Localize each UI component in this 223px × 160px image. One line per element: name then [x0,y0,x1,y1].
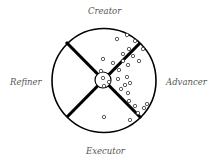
data-point [116,77,119,80]
data-point [127,99,130,102]
label-executor: Executor [86,146,125,156]
data-point [145,102,148,105]
label-refiner: Refiner [10,77,42,87]
data-point [126,63,129,66]
data-point [121,59,124,62]
data-point [111,61,114,64]
data-point [119,87,122,90]
data-point [126,91,129,94]
data-point [101,76,104,79]
label-advancer: Advancer [166,77,207,87]
data-point [128,118,131,121]
data-point [125,75,128,78]
data-point [121,52,124,55]
data-point [101,57,104,60]
data-point [99,69,102,72]
data-point [128,81,131,84]
data-point [102,84,105,87]
data-point [133,39,136,42]
data-point [137,59,140,62]
data-point [142,106,145,109]
data-point [131,54,134,57]
data-point [102,115,105,118]
data-point [123,83,126,86]
data-point [141,47,144,50]
data-point [117,68,120,71]
data-point [127,47,130,50]
data-point [133,104,136,107]
data-point [115,37,118,40]
data-point [136,111,139,114]
data-point [125,33,128,36]
data-point [107,80,110,83]
label-creator: Creator [88,6,121,16]
